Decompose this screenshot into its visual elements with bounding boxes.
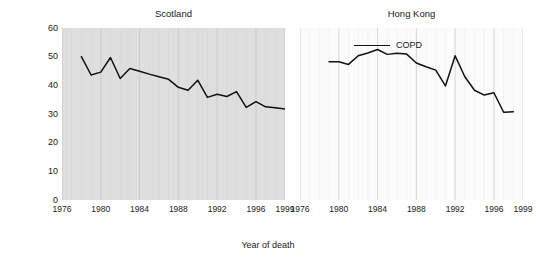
hongkong-x-tick-label-1999: 1999 (514, 204, 533, 214)
x-axis-title: Year of death (0, 240, 536, 250)
y-tick-label-60: 60 (32, 24, 58, 33)
hongkong-x-tick-labels: 1976198019841988199219961999 (300, 204, 523, 218)
panel-scotland: Scotland 1976198019841988199219961999 (62, 28, 285, 200)
scotland-series-svg (62, 28, 285, 200)
legend-label-copd: COPD (396, 40, 422, 50)
scotland-x-tick-labels: 1976198019841988199219961999 (62, 204, 285, 218)
y-tick-label-10: 10 (32, 167, 58, 176)
y-axis-tick-labels: 6050403020100 (28, 0, 58, 269)
panel-hongkong-title: Hong Kong (300, 8, 523, 19)
panel-hongkong: Hong Kong COPD 1976198019841988199219961… (300, 28, 523, 200)
chart-figure: Rate per 100,000 6050403020100 Scotland … (0, 0, 536, 269)
hongkong-series-copd (329, 50, 513, 113)
legend-line-swatch-icon (354, 45, 390, 46)
panel-hongkong-plot-area (300, 28, 523, 200)
hongkong-series-svg (300, 28, 523, 200)
scotland-x-tick-label-1976: 1976 (53, 204, 72, 214)
y-tick-label-20: 20 (32, 138, 58, 147)
scotland-series-copd (81, 57, 285, 109)
hongkong-x-tick-label-1984: 1984 (368, 204, 387, 214)
scotland-x-tick-label-1988: 1988 (169, 204, 188, 214)
hongkong-x-tick-label-1988: 1988 (407, 204, 426, 214)
y-tick-label-50: 50 (32, 52, 58, 61)
hongkong-x-tick-label-1996: 1996 (484, 204, 503, 214)
y-tick-label-30: 30 (32, 110, 58, 119)
y-tick-label-40: 40 (32, 81, 58, 90)
scotland-x-tick-label-1984: 1984 (130, 204, 149, 214)
chart-legend: COPD (354, 40, 422, 50)
panel-scotland-plot-area (62, 28, 285, 200)
hongkong-x-tick-label-1976: 1976 (291, 204, 310, 214)
panel-scotland-title: Scotland (62, 8, 285, 19)
scotland-x-tick-label-1980: 1980 (91, 204, 110, 214)
hongkong-x-tick-label-1992: 1992 (446, 204, 465, 214)
scotland-x-tick-label-1996: 1996 (246, 204, 265, 214)
hongkong-x-tick-label-1980: 1980 (329, 204, 348, 214)
scotland-x-tick-label-1992: 1992 (208, 204, 227, 214)
